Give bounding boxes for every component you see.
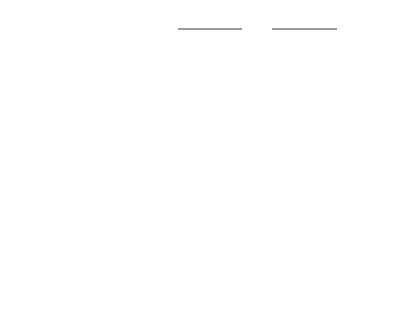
hyperbola-graph — [0, 0, 410, 330]
